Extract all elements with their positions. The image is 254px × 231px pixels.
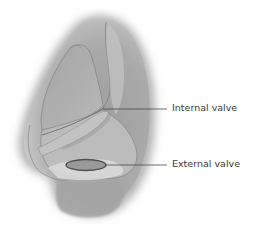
internal-valve-label: Internal valve bbox=[172, 102, 237, 113]
external-valve-marker bbox=[66, 160, 106, 171]
external-valve-label: External valve bbox=[172, 158, 240, 169]
nose-diagram bbox=[0, 0, 254, 231]
